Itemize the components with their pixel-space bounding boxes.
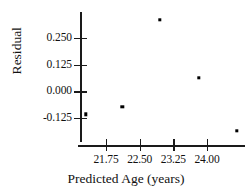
data-point [120, 105, 123, 108]
data-point [197, 76, 200, 79]
data-point [158, 18, 161, 21]
plot-area [0, 0, 252, 195]
x-axis-title: Predicted Age (years) [0, 172, 252, 186]
data-point [235, 129, 238, 132]
y-axis-title: Residual [10, 11, 24, 91]
residual-scatter-plot: 0.2500.1250.000-0.125 21.7522.5023.2524.… [0, 0, 252, 195]
data-point [84, 112, 87, 115]
